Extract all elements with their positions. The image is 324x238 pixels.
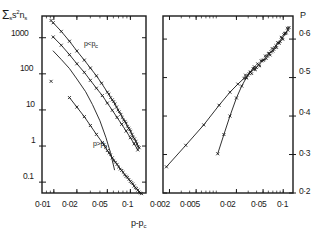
axes-layer: [39, 16, 296, 193]
plot-canvas: [0, 0, 324, 238]
figure-container: Σss2ns 1000 100 10 1 0.1 0·01 0·02 0·05 …: [0, 0, 324, 238]
right-panel-data-layer: [165, 26, 291, 168]
left-panel-data-layer: [50, 19, 143, 195]
